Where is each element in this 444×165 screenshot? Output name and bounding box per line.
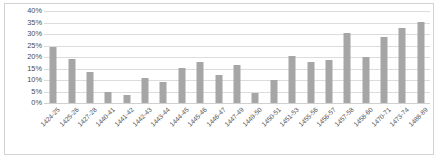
bar-slot bbox=[191, 11, 209, 103]
bar-slot bbox=[209, 11, 227, 103]
bar[interactable] bbox=[362, 57, 369, 103]
bar-slot bbox=[99, 11, 117, 103]
bar[interactable] bbox=[197, 62, 204, 103]
x-axis-tick-label: 1425-26 bbox=[58, 106, 80, 128]
x-axis-tick-label: 1455-56 bbox=[297, 106, 319, 128]
bar[interactable] bbox=[160, 82, 167, 103]
bar-slot bbox=[393, 11, 411, 103]
bar[interactable] bbox=[68, 59, 75, 103]
bar[interactable] bbox=[86, 72, 93, 103]
x-axis-tick-label: 1451-53 bbox=[278, 106, 300, 128]
bar[interactable] bbox=[307, 62, 314, 103]
bar[interactable] bbox=[289, 56, 296, 103]
bar[interactable] bbox=[233, 65, 240, 103]
bars-layer bbox=[44, 11, 430, 103]
bar[interactable] bbox=[142, 78, 149, 103]
x-axis-tick-label: 1473-74 bbox=[389, 106, 411, 128]
bar-slot bbox=[62, 11, 80, 103]
bar[interactable] bbox=[215, 75, 222, 103]
bar-slot bbox=[246, 11, 264, 103]
bar-slot bbox=[375, 11, 393, 103]
bar-slot bbox=[320, 11, 338, 103]
bar-slot bbox=[118, 11, 136, 103]
bar[interactable] bbox=[399, 28, 406, 103]
y-axis-tick-label: 30% bbox=[8, 30, 42, 37]
y-axis-tick-label: 40% bbox=[8, 7, 42, 14]
bar-slot bbox=[154, 11, 172, 103]
bar-slot bbox=[173, 11, 191, 103]
x-axis-tick-label: 1458-60 bbox=[352, 106, 374, 128]
x-axis-tick-label: 1446-47 bbox=[205, 106, 227, 128]
bar-slot bbox=[136, 11, 154, 103]
bar[interactable] bbox=[344, 33, 351, 103]
y-axis-tick-label: 20% bbox=[8, 53, 42, 60]
y-axis-tick-label: 25% bbox=[8, 42, 42, 49]
x-axis-tick-label: 1443-44 bbox=[150, 106, 172, 128]
bar-slot bbox=[265, 11, 283, 103]
bar[interactable] bbox=[270, 80, 277, 103]
y-axis: 0%5%10%15%20%25%30%35%40% bbox=[8, 11, 42, 103]
bar[interactable] bbox=[381, 37, 388, 103]
bar[interactable] bbox=[105, 92, 112, 103]
y-axis-tick-label: 10% bbox=[8, 76, 42, 83]
bar-slot bbox=[44, 11, 62, 103]
bar[interactable] bbox=[325, 60, 332, 103]
y-axis-tick-label: 35% bbox=[8, 19, 42, 26]
bar[interactable] bbox=[252, 93, 259, 103]
bar-slot bbox=[412, 11, 430, 103]
bar-slot bbox=[228, 11, 246, 103]
x-axis-tick-label: 1445-46 bbox=[186, 106, 208, 128]
bar-slot bbox=[283, 11, 301, 103]
x-axis-tick-label: 1488-89 bbox=[407, 106, 429, 128]
x-axis-tick-label: 1441-42 bbox=[113, 106, 135, 128]
x-axis-tick-label: 1440-41 bbox=[94, 106, 116, 128]
y-axis-tick-label: 15% bbox=[8, 65, 42, 72]
y-axis-tick-label: 5% bbox=[8, 88, 42, 95]
bar-slot bbox=[356, 11, 374, 103]
bar[interactable] bbox=[50, 47, 57, 103]
bar-slot bbox=[301, 11, 319, 103]
bar[interactable] bbox=[417, 22, 424, 103]
x-axis: 1424-251425-261427-281440-411441-421442-… bbox=[44, 104, 430, 152]
bar-slot bbox=[338, 11, 356, 103]
x-axis-tick-label: 1442-43 bbox=[131, 106, 153, 128]
bar[interactable] bbox=[123, 95, 130, 104]
x-axis-tick-label: 1457-58 bbox=[333, 106, 355, 128]
x-axis-tick-label: 1450-51 bbox=[260, 106, 282, 128]
x-axis-tick-label: 1444-45 bbox=[168, 106, 190, 128]
y-axis-tick-label: 0% bbox=[8, 99, 42, 106]
bar-slot bbox=[81, 11, 99, 103]
plot-area bbox=[44, 11, 430, 103]
x-axis-tick-label: 1449-50 bbox=[242, 106, 264, 128]
bar[interactable] bbox=[178, 68, 185, 103]
bar-chart: 0%5%10%15%20%25%30%35%40% 1424-251425-26… bbox=[0, 0, 444, 165]
